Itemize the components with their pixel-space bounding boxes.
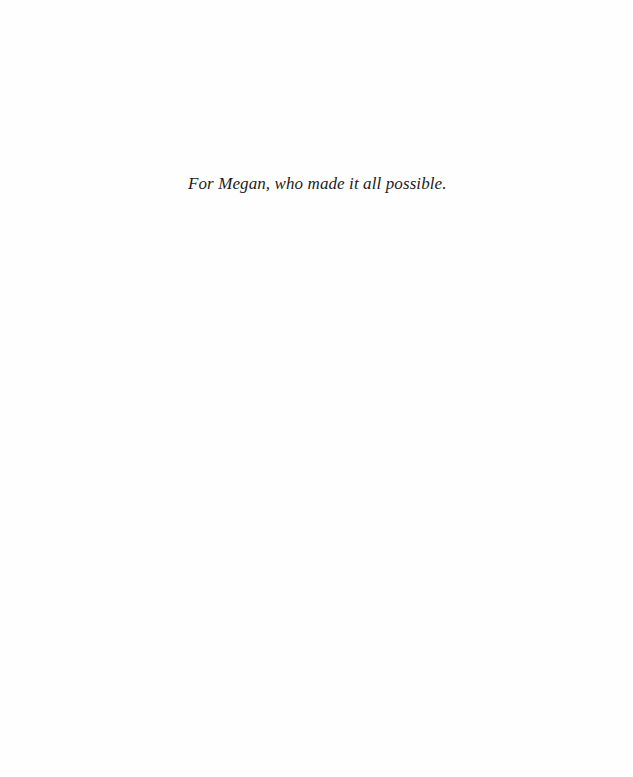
book-page: For Megan, who made it all possible.: [0, 0, 633, 777]
dedication-text: For Megan, who made it all possible.: [188, 174, 447, 194]
